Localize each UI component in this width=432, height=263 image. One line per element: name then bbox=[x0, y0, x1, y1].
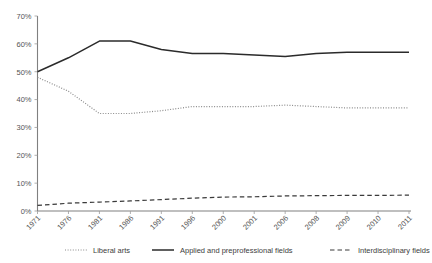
legend-label-3[interactable]: Interdisciplinary fields bbox=[358, 246, 430, 255]
x-tick-label: 2006 bbox=[272, 214, 290, 232]
x-tick-label: 1986 bbox=[117, 214, 135, 232]
line-chart: 0%10%20%30%40%50%60%70% 1971197619811986… bbox=[0, 0, 432, 263]
x-tick-label: 1991 bbox=[148, 214, 166, 232]
x-tick-label: 1971 bbox=[24, 214, 42, 232]
x-tick-label: 2010 bbox=[365, 214, 383, 232]
y-tick-label: 20% bbox=[16, 151, 31, 160]
x-tick-label: 2008 bbox=[303, 214, 321, 232]
y-tick-label: 30% bbox=[16, 123, 31, 132]
x-tick-label: 2001 bbox=[241, 214, 259, 232]
y-tick-label: 0% bbox=[21, 207, 32, 216]
y-tick-label: 50% bbox=[16, 68, 31, 77]
chart-legend: Liberal artsApplied and preprofessional … bbox=[65, 246, 430, 255]
y-tick-label: 60% bbox=[16, 40, 31, 49]
x-tick-label: 2011 bbox=[396, 214, 414, 232]
chart-canvas: 0%10%20%30%40%50%60%70% 1971197619811986… bbox=[0, 0, 432, 263]
series-line-interdisciplinary-fields bbox=[38, 195, 410, 205]
y-tick-label: 10% bbox=[16, 179, 31, 188]
y-tick-label: 40% bbox=[16, 95, 31, 104]
series-line-liberal-arts bbox=[38, 77, 410, 113]
x-axis: 1971197619811986199119962000200120062008… bbox=[24, 211, 414, 232]
x-tick-label: 1996 bbox=[179, 214, 197, 232]
series-lines bbox=[38, 41, 410, 205]
y-tick-label: 70% bbox=[16, 12, 31, 21]
legend-label-1[interactable]: Liberal arts bbox=[93, 246, 130, 255]
y-axis: 0%10%20%30%40%50%60%70% bbox=[16, 12, 37, 216]
x-tick-label: 2009 bbox=[334, 214, 352, 232]
x-tick-label: 1981 bbox=[86, 214, 104, 232]
series-line-applied-and-preprofessional-fields bbox=[38, 41, 410, 72]
legend-label-2[interactable]: Applied and preprofessional fields bbox=[180, 246, 293, 255]
x-tick-label: 2000 bbox=[210, 214, 228, 232]
x-tick-label: 1976 bbox=[55, 214, 73, 232]
